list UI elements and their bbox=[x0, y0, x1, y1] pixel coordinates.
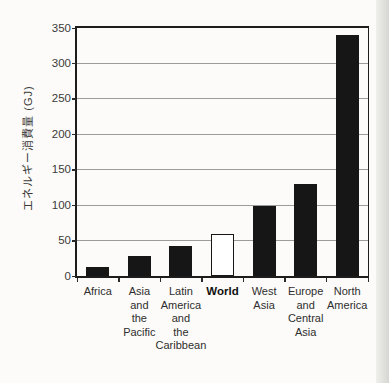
x-tick-mark-1 bbox=[118, 278, 120, 282]
x-tick-mark-5 bbox=[284, 278, 286, 282]
x-tick-mark-3 bbox=[201, 278, 203, 282]
y-tick-label-150: 150 bbox=[37, 163, 71, 176]
y-tick-mark-150 bbox=[72, 169, 76, 171]
bar-north-america bbox=[336, 35, 359, 276]
x-tick-mark-6 bbox=[326, 278, 328, 282]
gridline-300 bbox=[77, 63, 368, 64]
bar-europe-and-central-asia bbox=[294, 184, 317, 276]
x-tick-mark-0 bbox=[77, 278, 79, 282]
gridline-150 bbox=[77, 169, 368, 170]
y-tick-mark-200 bbox=[72, 134, 76, 136]
x-tick-mark-7 bbox=[368, 278, 370, 282]
y-tick-mark-100 bbox=[72, 205, 76, 207]
bar-latin-america-and-the-caribbean bbox=[169, 246, 192, 276]
y-tick-label-0: 0 bbox=[37, 270, 71, 283]
y-axis-title: エネルギー消費量 (GJ) bbox=[19, 48, 35, 248]
bar-world bbox=[211, 234, 234, 277]
bar-asia-and-the-pacific bbox=[128, 256, 151, 276]
y-tick-mark-0 bbox=[72, 276, 76, 278]
gridline-100 bbox=[77, 205, 368, 206]
y-tick-mark-50 bbox=[72, 240, 76, 242]
page-edge-shading bbox=[376, 0, 389, 383]
y-tick-label-50: 50 bbox=[37, 234, 71, 247]
bar-west-asia bbox=[253, 206, 276, 276]
y-tick-mark-250 bbox=[72, 98, 76, 100]
plot-area bbox=[75, 26, 369, 278]
y-tick-mark-350 bbox=[72, 28, 76, 30]
y-tick-label-200: 200 bbox=[37, 128, 71, 141]
x-tick-mark-2 bbox=[160, 278, 162, 282]
x-tick-mark-4 bbox=[243, 278, 245, 282]
bar-chart-figure: エネルギー消費量 (GJ) 050100150200250300350Afric… bbox=[0, 0, 389, 383]
y-tick-label-350: 350 bbox=[37, 22, 71, 35]
gridline-200 bbox=[77, 134, 368, 135]
y-tick-label-300: 300 bbox=[37, 57, 71, 70]
x-label-north-america: NorthAmerica bbox=[314, 285, 380, 312]
y-tick-mark-300 bbox=[72, 63, 76, 65]
y-tick-label-100: 100 bbox=[37, 199, 71, 212]
bar-africa bbox=[86, 267, 109, 276]
gridline-250 bbox=[77, 98, 368, 99]
y-tick-label-250: 250 bbox=[37, 92, 71, 105]
